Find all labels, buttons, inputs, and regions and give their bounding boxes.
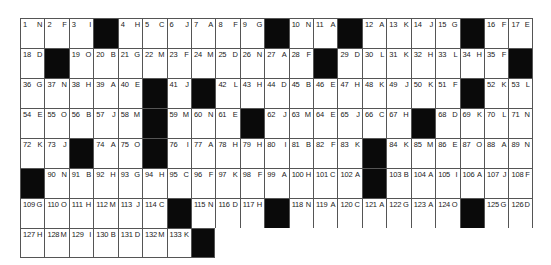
grid-cell[interactable]: 120C xyxy=(337,198,361,228)
grid-cell[interactable]: 10N xyxy=(289,18,313,48)
grid-cell[interactable]: 57J xyxy=(93,108,117,138)
grid-cell[interactable]: 91B xyxy=(69,168,93,198)
grid-cell[interactable]: 106A xyxy=(460,168,484,198)
grid-cell[interactable]: 5C xyxy=(142,18,166,48)
grid-cell[interactable]: 82F xyxy=(313,138,337,168)
grid-cell[interactable]: 30L xyxy=(362,48,386,78)
grid-cell[interactable]: 50K xyxy=(411,78,435,108)
grid-cell[interactable]: 35F xyxy=(484,48,508,78)
grid-cell[interactable]: 121A xyxy=(362,198,386,228)
grid-cell[interactable]: 95C xyxy=(167,168,191,198)
grid-cell[interactable]: 56B xyxy=(69,108,93,138)
grid-cell[interactable]: 69K xyxy=(460,108,484,138)
grid-cell[interactable]: 94H xyxy=(142,168,166,198)
grid-cell[interactable]: 28F xyxy=(289,48,313,78)
grid-cell[interactable]: 79H xyxy=(240,138,264,168)
grid-cell[interactable]: 19O xyxy=(69,48,93,78)
grid-cell[interactable]: 26N xyxy=(240,48,264,78)
grid-cell[interactable]: 96F xyxy=(191,168,215,198)
grid-cell[interactable]: 34H xyxy=(460,48,484,78)
grid-cell[interactable]: 109G xyxy=(20,198,44,228)
grid-cell[interactable]: 24M xyxy=(191,48,215,78)
grid-cell[interactable]: 108F xyxy=(508,168,532,198)
grid-cell[interactable]: 52K xyxy=(484,78,508,108)
grid-cell[interactable]: 81B xyxy=(289,138,313,168)
grid-cell[interactable]: 21G xyxy=(118,48,142,78)
grid-cell[interactable]: 102A xyxy=(337,168,361,198)
grid-cell[interactable]: 92H xyxy=(93,168,117,198)
grid-cell[interactable]: 51F xyxy=(435,78,459,108)
grid-cell[interactable]: 48K xyxy=(362,78,386,108)
grid-cell[interactable]: 43H xyxy=(240,78,264,108)
grid-cell[interactable]: 63M xyxy=(289,108,313,138)
grid-cell[interactable]: 118N xyxy=(289,198,313,228)
grid-cell[interactable]: 8F xyxy=(215,18,239,48)
grid-cell[interactable]: 86E xyxy=(435,138,459,168)
grid-cell[interactable]: 99A xyxy=(264,168,288,198)
grid-cell[interactable]: 13K xyxy=(386,18,410,48)
grid-cell[interactable]: 88A xyxy=(484,138,508,168)
grid-cell[interactable]: 70L xyxy=(484,108,508,138)
grid-cell[interactable]: 62J xyxy=(264,108,288,138)
grid-cell[interactable]: 84K xyxy=(386,138,410,168)
grid-cell[interactable]: 1N xyxy=(20,18,44,48)
grid-cell[interactable]: 97K xyxy=(215,168,239,198)
grid-cell[interactable]: 131D xyxy=(118,228,142,258)
grid-cell[interactable]: 75O xyxy=(118,138,142,168)
grid-cell[interactable]: 32H xyxy=(411,48,435,78)
grid-cell[interactable]: 49J xyxy=(386,78,410,108)
grid-cell[interactable]: 18D xyxy=(20,48,44,78)
grid-cell[interactable]: 68D xyxy=(435,108,459,138)
grid-cell[interactable]: 103B xyxy=(386,168,410,198)
grid-cell[interactable]: 60N xyxy=(191,108,215,138)
grid-cell[interactable]: 80I xyxy=(264,138,288,168)
grid-cell[interactable]: 53L xyxy=(508,78,532,108)
grid-cell[interactable]: 59M xyxy=(167,108,191,138)
grid-cell[interactable]: 33L xyxy=(435,48,459,78)
grid-cell[interactable]: 76I xyxy=(167,138,191,168)
grid-cell[interactable]: 114C xyxy=(142,198,166,228)
grid-cell[interactable]: 122G xyxy=(386,198,410,228)
grid-cell[interactable]: 42L xyxy=(215,78,239,108)
grid-cell[interactable]: 89N xyxy=(508,138,532,168)
grid-cell[interactable]: 47H xyxy=(337,78,361,108)
grid-cell[interactable]: 73J xyxy=(44,138,68,168)
grid-cell[interactable]: 129I xyxy=(69,228,93,258)
grid-cell[interactable]: 87O xyxy=(460,138,484,168)
grid-cell[interactable]: 78H xyxy=(215,138,239,168)
grid-cell[interactable]: 126D xyxy=(508,198,532,228)
grid-cell[interactable]: 123A xyxy=(411,198,435,228)
grid-cell[interactable]: 90N xyxy=(44,168,68,198)
grid-cell[interactable]: 27A xyxy=(264,48,288,78)
grid-cell[interactable]: 41J xyxy=(167,78,191,108)
grid-cell[interactable]: 9G xyxy=(240,18,264,48)
grid-cell[interactable]: 101C xyxy=(313,168,337,198)
grid-cell[interactable]: 58M xyxy=(118,108,142,138)
grid-cell[interactable]: 125G xyxy=(484,198,508,228)
grid-cell[interactable]: 128M xyxy=(44,228,68,258)
grid-cell[interactable]: 16F xyxy=(484,18,508,48)
grid-cell[interactable]: 54E xyxy=(20,108,44,138)
grid-cell[interactable]: 127H xyxy=(20,228,44,258)
grid-cell[interactable]: 67H xyxy=(386,108,410,138)
grid-cell[interactable]: 11A xyxy=(313,18,337,48)
grid-cell[interactable]: 117H xyxy=(240,198,264,228)
grid-cell[interactable]: 85M xyxy=(411,138,435,168)
grid-cell[interactable]: 55O xyxy=(44,108,68,138)
grid-cell[interactable]: 130B xyxy=(93,228,117,258)
grid-cell[interactable]: 77A xyxy=(191,138,215,168)
grid-cell[interactable]: 46E xyxy=(313,78,337,108)
grid-cell[interactable]: 20B xyxy=(93,48,117,78)
grid-cell[interactable]: 72K xyxy=(20,138,44,168)
grid-cell[interactable]: 6J xyxy=(167,18,191,48)
grid-cell[interactable]: 31K xyxy=(386,48,410,78)
grid-cell[interactable]: 74A xyxy=(93,138,117,168)
grid-cell[interactable]: 38H xyxy=(69,78,93,108)
grid-cell[interactable]: 3I xyxy=(69,18,93,48)
grid-cell[interactable]: 17E xyxy=(508,18,532,48)
grid-cell[interactable]: 29D xyxy=(337,48,361,78)
grid-cell[interactable]: 124O xyxy=(435,198,459,228)
grid-cell[interactable]: 4H xyxy=(118,18,142,48)
grid-cell[interactable]: 83K xyxy=(337,138,361,168)
grid-cell[interactable]: 7A xyxy=(191,18,215,48)
